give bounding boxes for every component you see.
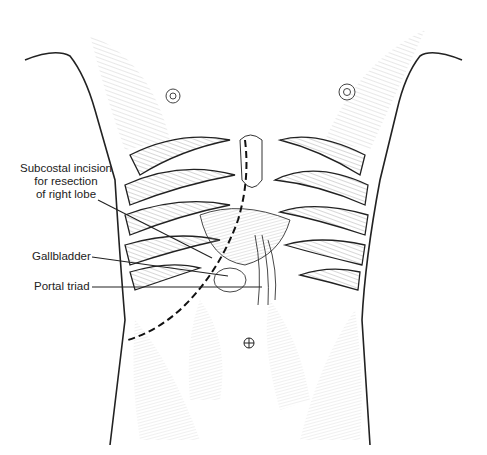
label-line: Subcostal incision [14,162,118,175]
abdominal-organs [200,209,290,305]
label-line: Gallbladder [32,250,91,263]
label-subcostal-incision: Subcostal incision for resection of righ… [14,162,118,201]
gallbladder-shape [214,268,246,292]
sternum [240,135,262,188]
navel [244,338,254,348]
label-portal-triad: Portal triad [34,280,90,293]
label-line: Portal triad [34,280,90,293]
nipples [166,84,355,103]
label-gallbladder: Gallbladder [32,250,91,263]
ribs-right [275,137,368,290]
anatomical-illustration [0,0,487,455]
label-line: of right lobe [14,188,118,201]
label-line: for resection [14,175,118,188]
